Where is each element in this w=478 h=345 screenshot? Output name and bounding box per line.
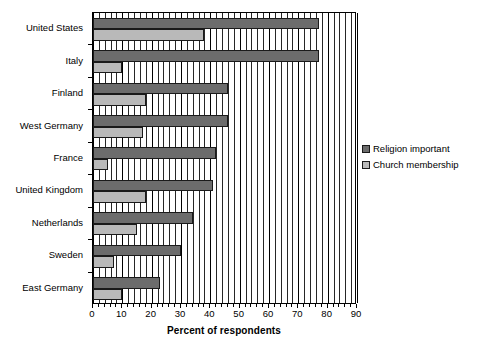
chart-page: United StatesItalyFinlandWest GermanyFra… <box>0 0 478 345</box>
y-axis-tick-label: Sweden <box>49 250 83 260</box>
bar[interactable] <box>93 62 122 74</box>
x-axis-minor-tick <box>262 304 263 307</box>
x-axis-tick-label: 50 <box>233 309 244 319</box>
plot-area <box>92 12 356 304</box>
x-axis-minor-tick <box>98 304 99 307</box>
x-axis-minor-tick <box>215 304 216 307</box>
x-axis-tick-label: 90 <box>351 309 362 319</box>
y-axis-tick-label: West Germany <box>20 121 83 131</box>
x-axis-minor-tick <box>321 304 322 307</box>
x-axis-minor-tick <box>162 304 163 307</box>
legend-swatch-icon <box>362 145 370 153</box>
x-axis-tick-label: 0 <box>89 309 94 319</box>
x-axis-tick-label: 80 <box>321 309 332 319</box>
bar-group <box>93 240 355 272</box>
x-axis-minor-tick <box>227 304 228 307</box>
y-axis-tick-label: United Kingdom <box>15 185 83 195</box>
x-axis-minor-tick <box>157 304 158 307</box>
y-axis-labels: United StatesItalyFinlandWest GermanyFra… <box>0 12 88 304</box>
y-axis-tick-label: France <box>53 153 83 163</box>
bar[interactable] <box>93 159 108 171</box>
x-axis-minor-tick <box>133 304 134 307</box>
x-axis-tick-label: 40 <box>204 309 215 319</box>
bar-group <box>93 273 355 305</box>
x-axis-minor-tick <box>245 304 246 307</box>
bar[interactable] <box>93 94 146 106</box>
bar-group <box>93 78 355 110</box>
bar[interactable] <box>93 147 216 159</box>
legend-item-church-membership[interactable]: Church membership <box>362 158 478 172</box>
y-axis-tick-label: United States <box>26 23 83 33</box>
legend-swatch-icon <box>362 161 370 169</box>
bar[interactable] <box>93 212 193 224</box>
bar[interactable] <box>93 115 228 127</box>
chart-legend: Religion important Church membership <box>362 142 478 174</box>
x-axis-minor-tick <box>315 304 316 307</box>
bar[interactable] <box>93 191 146 203</box>
x-axis-minor-tick <box>115 304 116 307</box>
x-axis-minor-tick <box>168 304 169 307</box>
bar-group <box>93 45 355 77</box>
x-axis-minor-tick <box>256 304 257 307</box>
x-axis-minor-tick <box>221 304 222 307</box>
y-axis-tick-label: Italy <box>66 56 83 66</box>
bar[interactable] <box>93 289 122 301</box>
x-axis-minor-tick <box>274 304 275 307</box>
bar-rows <box>93 13 355 303</box>
legend-item-religion-important[interactable]: Religion important <box>362 142 478 156</box>
x-axis-minor-tick <box>139 304 140 307</box>
x-axis-minor-tick <box>350 304 351 307</box>
x-axis-title: Percent of respondents <box>92 325 356 336</box>
legend-label: Church membership <box>373 160 459 170</box>
bar[interactable] <box>93 29 204 41</box>
bar[interactable] <box>93 18 319 30</box>
bar-group <box>93 143 355 175</box>
x-axis-tick-label: 60 <box>263 309 274 319</box>
y-axis-tick-label: Finland <box>52 88 83 98</box>
gridline <box>357 13 358 303</box>
x-axis-minor-tick <box>203 304 204 307</box>
bar-group <box>93 175 355 207</box>
x-axis-tick-label: 20 <box>145 309 156 319</box>
x-axis-minor-tick <box>104 304 105 307</box>
bar[interactable] <box>93 83 228 95</box>
x-axis-minor-tick <box>338 304 339 307</box>
x-axis-minor-tick <box>127 304 128 307</box>
legend-label: Religion important <box>373 144 450 154</box>
bar[interactable] <box>93 127 143 139</box>
x-axis-minor-tick <box>233 304 234 307</box>
x-axis-minor-tick <box>344 304 345 307</box>
x-axis-minor-tick <box>198 304 199 307</box>
bar[interactable] <box>93 245 181 257</box>
bar[interactable] <box>93 224 137 236</box>
x-axis-minor-tick <box>309 304 310 307</box>
x-axis-minor-tick <box>174 304 175 307</box>
x-axis-tick-labels: 0102030405060708090 <box>0 309 478 323</box>
x-axis-tick-label: 30 <box>175 309 186 319</box>
x-axis-minor-tick <box>192 304 193 307</box>
x-axis-minor-tick <box>303 304 304 307</box>
x-axis-minor-tick <box>286 304 287 307</box>
bar-group <box>93 13 355 45</box>
x-axis-minor-tick <box>250 304 251 307</box>
x-axis-minor-tick <box>145 304 146 307</box>
bar[interactable] <box>93 50 319 62</box>
x-axis-tick-label: 70 <box>292 309 303 319</box>
x-axis-minor-tick <box>291 304 292 307</box>
y-axis-tick-label: East Germany <box>22 283 83 293</box>
bar-group <box>93 208 355 240</box>
x-axis-minor-tick <box>186 304 187 307</box>
bar[interactable] <box>93 256 114 268</box>
x-axis-tick-label: 10 <box>116 309 127 319</box>
bar[interactable] <box>93 180 213 192</box>
x-axis-minor-tick <box>333 304 334 307</box>
y-axis-tick-label: Netherlands <box>32 218 83 228</box>
bar-group <box>93 110 355 142</box>
x-axis-minor-tick <box>280 304 281 307</box>
x-axis-minor-tick <box>110 304 111 307</box>
bar[interactable] <box>93 277 160 289</box>
